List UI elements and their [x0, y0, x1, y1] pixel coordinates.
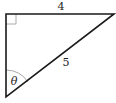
hypotenuse-label: 5 [63, 56, 70, 69]
right-angle-marker [6, 14, 16, 24]
right-triangle-diagram: 4 5 θ [0, 0, 116, 103]
angle-theta-label: θ [11, 75, 18, 88]
triangle-outline [6, 14, 114, 97]
top-leg-label: 4 [58, 0, 65, 13]
